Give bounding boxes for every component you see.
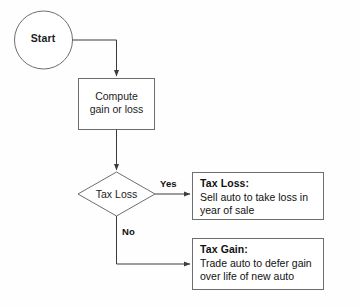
flowchart-canvas: Start Compute gain or loss Tax Loss Yes …: [0, 0, 361, 306]
decision-node-shape: [78, 172, 155, 216]
outcome-tax-loss-title: Tax Loss:: [200, 177, 317, 191]
outcome-tax-gain-title: Tax Gain:: [200, 243, 317, 257]
outcome-tax-loss-body: Sell auto to take loss in year of sale: [200, 191, 317, 218]
edge-start-to-process: [73, 40, 117, 76]
edge-label-yes: Yes: [160, 178, 177, 189]
outcome-node-tax-gain: Tax Gain: Trade auto to defer gain over …: [192, 238, 324, 290]
edge-label-no: No: [122, 226, 135, 237]
outcome-tax-gain-body: Trade auto to defer gain over life of ne…: [200, 257, 317, 284]
start-node-shape: [15, 11, 73, 69]
outcome-node-tax-loss: Tax Loss: Sell auto to take loss in year…: [192, 172, 324, 220]
process-node-shape: [79, 79, 155, 130]
edge-decision-no: [117, 216, 191, 264]
